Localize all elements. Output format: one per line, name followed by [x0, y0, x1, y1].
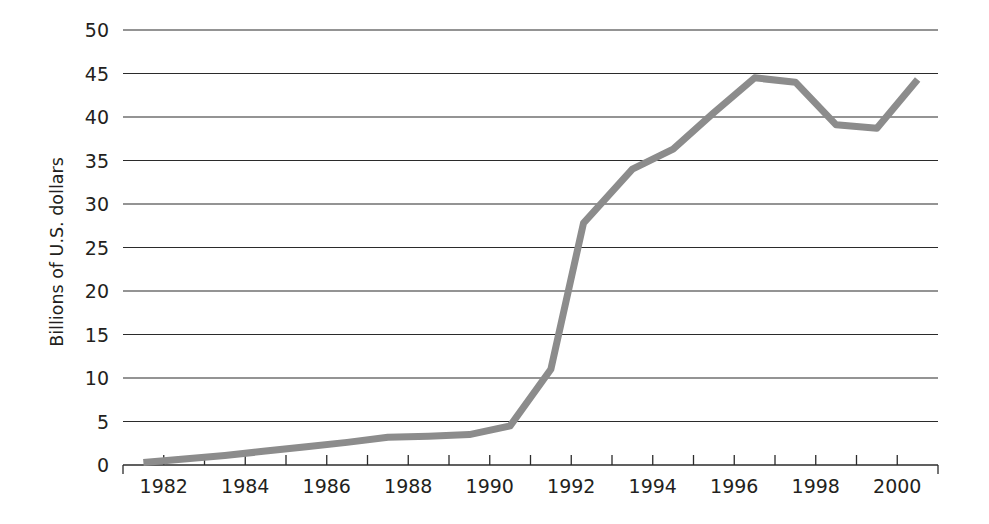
- y-tick-label-45: 45: [85, 63, 109, 85]
- x-tick-label-1996: 1996: [710, 475, 758, 497]
- y-tick-label-0: 0: [97, 454, 109, 476]
- y-tick-label-5: 5: [97, 411, 109, 433]
- y-tick-label-40: 40: [85, 106, 109, 128]
- x-tick-label-2000: 2000: [873, 475, 921, 497]
- y-tick-label-50: 50: [85, 19, 109, 41]
- line-chart: Billions of U.S. dollars 051015202530354…: [0, 0, 989, 524]
- y-tick-label-20: 20: [85, 280, 109, 302]
- x-tick-label-1998: 1998: [792, 475, 840, 497]
- x-tick-label-1988: 1988: [384, 475, 432, 497]
- y-tick-label-10: 10: [85, 367, 109, 389]
- x-tick-label-1982: 1982: [140, 475, 188, 497]
- x-tick-label-1986: 1986: [303, 475, 351, 497]
- y-axis-title: Billions of U.S. dollars: [47, 157, 67, 347]
- chart-background: [0, 0, 989, 524]
- x-tick-label-1984: 1984: [221, 475, 269, 497]
- y-tick-label-15: 15: [85, 324, 109, 346]
- x-tick-label-1994: 1994: [629, 475, 677, 497]
- x-tick-label-1990: 1990: [466, 475, 514, 497]
- x-tick-label-1992: 1992: [547, 475, 595, 497]
- y-tick-label-35: 35: [85, 150, 109, 172]
- chart-canvas: Billions of U.S. dollars 051015202530354…: [0, 0, 989, 524]
- y-tick-label-25: 25: [85, 237, 109, 259]
- y-tick-label-30: 30: [85, 193, 109, 215]
